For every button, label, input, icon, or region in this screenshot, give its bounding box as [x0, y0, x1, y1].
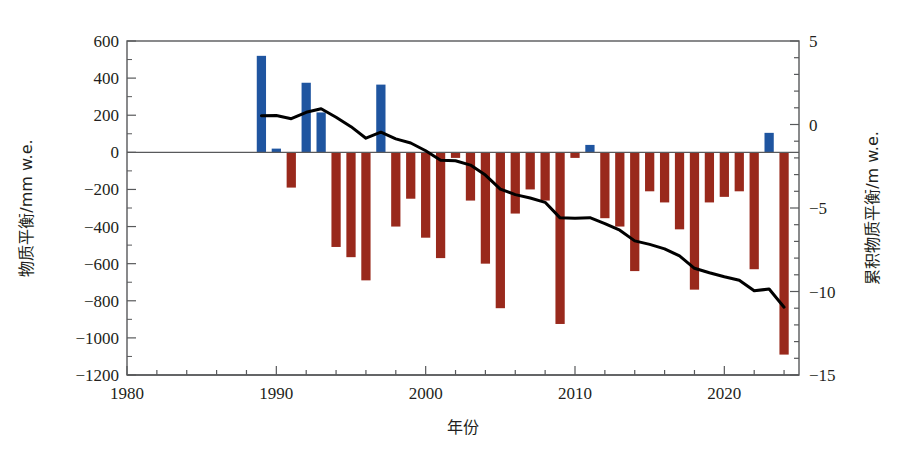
x-tick-label-2000: 2000	[409, 384, 443, 403]
y-tick-label-200: 200	[94, 106, 120, 125]
bar-1989	[257, 56, 266, 152]
bar-2024	[779, 152, 788, 354]
x-tick-label-1990: 1990	[259, 384, 293, 403]
y2-tick-label-0: 0	[809, 116, 818, 135]
bar-2012	[600, 152, 609, 218]
bar-2008	[541, 152, 550, 200]
bar-2015	[645, 152, 654, 191]
chart-canvas: 19801990200020102020 6004002000−200−400−…	[0, 0, 905, 468]
bar-2017	[675, 152, 684, 229]
bar-2009	[555, 152, 564, 324]
y-tick-label--1000: −1000	[75, 329, 119, 348]
bar-2022	[750, 152, 759, 269]
bar-2006	[511, 152, 520, 213]
y-tick-label-600: 600	[94, 32, 120, 51]
bar-2001	[436, 152, 445, 258]
bar-2000	[421, 152, 430, 237]
bar-2005	[496, 152, 505, 308]
y-tick-label--200: −200	[84, 180, 119, 199]
y-tick-label-0: 0	[111, 143, 120, 162]
x-axis-title: 年份	[447, 418, 479, 437]
bar-1993	[317, 112, 326, 152]
bar-2023	[765, 133, 774, 152]
bar-2003	[466, 152, 475, 200]
bar-1995	[346, 152, 355, 257]
bar-2013	[615, 152, 624, 226]
bar-2014	[630, 152, 639, 271]
x-tick-label-2020: 2020	[707, 384, 741, 403]
x-tick-label-2010: 2010	[558, 384, 592, 403]
bar-2004	[481, 152, 490, 263]
y2-tick-label--5: −5	[809, 199, 827, 218]
x-tick-label-1980: 1980	[110, 384, 144, 403]
bar-2002	[451, 152, 460, 158]
bar-1992	[302, 83, 311, 153]
bar-2010	[570, 152, 579, 158]
bar-2007	[526, 152, 535, 189]
mass-balance-chart: 19801990200020102020 6004002000−200−400−…	[0, 0, 905, 468]
bar-2020	[720, 152, 729, 197]
bar-1998	[391, 152, 400, 226]
bar-1994	[331, 152, 340, 247]
y-axis-title: 物质平衡/mm w.e.	[17, 139, 36, 276]
bar-1991	[287, 152, 296, 187]
y2-axis-title: 累积物质平衡/m w.e.	[863, 131, 882, 285]
y-tick-label-400: 400	[94, 69, 120, 88]
y2-tick-label--15: −15	[809, 366, 836, 385]
y-tick-label--400: −400	[84, 218, 119, 237]
y2-tick-label--10: −10	[809, 283, 836, 302]
y-tick-label--1200: −1200	[75, 366, 119, 385]
bar-2021	[735, 152, 744, 191]
bar-2011	[585, 145, 594, 152]
bar-2019	[705, 152, 714, 202]
bar-1997	[376, 85, 385, 153]
bar-1999	[406, 152, 415, 198]
bar-1996	[361, 152, 370, 280]
y2-tick-label-5: 5	[809, 32, 818, 51]
y-tick-label--800: −800	[84, 292, 119, 311]
bar-2016	[660, 152, 669, 202]
y-tick-label--600: −600	[84, 255, 119, 274]
